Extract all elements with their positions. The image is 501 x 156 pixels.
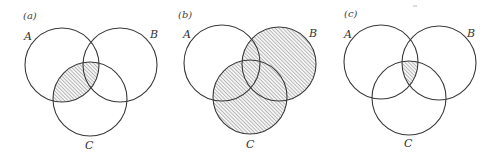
venn-figure: (a) A B C (b) A B C (c)	[0, 0, 501, 156]
venn-panel-c: (c) A B C	[343, 6, 476, 150]
set-label-c: C	[246, 138, 255, 151]
set-label-b: B	[149, 28, 158, 41]
set-label-a: A	[182, 28, 191, 41]
set-label-a: A	[343, 28, 352, 41]
set-label-c: C	[85, 139, 94, 152]
panel-label-c: (c)	[344, 8, 358, 19]
set-label-b: B	[308, 27, 317, 40]
shaded-region-b-union-c	[213, 27, 316, 134]
panel-label-a: (a)	[23, 10, 37, 21]
set-label-a: A	[23, 30, 32, 43]
set-label-c: C	[404, 137, 413, 150]
panel-label-b: (b)	[178, 9, 192, 20]
set-label-b: B	[466, 27, 475, 40]
venn-panel-b: (b) A B C	[178, 9, 317, 151]
venn-panel-a: (a) A B C	[23, 10, 158, 152]
